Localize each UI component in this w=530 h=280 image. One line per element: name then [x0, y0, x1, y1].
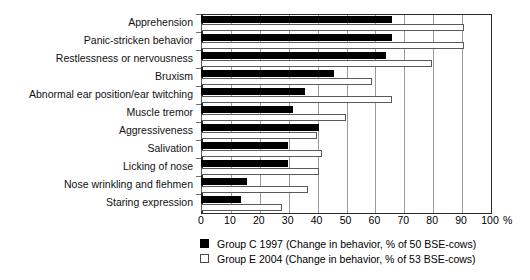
legend-swatch-outlined-square	[200, 254, 209, 263]
category-label: Staring expression	[0, 197, 193, 208]
bar-group-e-2004	[201, 132, 317, 139]
bar-group-e-2004	[201, 78, 372, 85]
bar-group-c-1997	[201, 52, 386, 59]
x-axis: 0102030405060708090100%	[201, 214, 511, 230]
bar-group-c-1997	[201, 88, 305, 95]
category-label: Abnormal ear position/ear twitching	[0, 89, 193, 100]
bar-group-e-2004	[201, 204, 282, 211]
bar-group-c-1997	[201, 178, 247, 185]
x-axis-unit-label: %	[503, 214, 512, 226]
category-label: Panic-stricken behavior	[0, 35, 193, 46]
bar-group-c-1997	[201, 106, 293, 113]
bar-group-e-2004	[201, 150, 322, 157]
bar-group	[201, 32, 490, 50]
bar-group	[201, 68, 490, 86]
bar-group-c-1997	[201, 142, 288, 149]
category-label: Aggressiveness	[0, 125, 193, 136]
category-axis-labels: ApprehensionPanic-stricken behaviorRestl…	[0, 14, 197, 212]
category-label: Licking of nose	[0, 161, 193, 172]
plot-area: ApprehensionPanic-stricken behaviorRestl…	[0, 0, 530, 232]
bar-group	[201, 158, 490, 176]
legend-item-group-c: Group C 1997 (Change in behavior, % of 5…	[200, 236, 530, 251]
legend: Group C 1997 (Change in behavior, % of 5…	[200, 236, 530, 266]
x-tick-label: 40	[311, 214, 323, 226]
bar-chart: ApprehensionPanic-stricken behaviorRestl…	[0, 0, 530, 280]
bar-group-c-1997	[201, 16, 392, 23]
bar-group	[201, 122, 490, 140]
bar-group-c-1997	[201, 124, 319, 131]
bar-group-e-2004	[201, 168, 319, 175]
legend-item-group-e: Group E 2004 (Change in behavior, % of 5…	[200, 251, 530, 266]
x-tick-label: 100	[481, 214, 499, 226]
x-tick-label: 0	[198, 214, 204, 226]
category-label: Restlessness or nervousness	[0, 53, 193, 64]
legend-label-group-c: Group C 1997 (Change in behavior, % of 5…	[217, 238, 476, 250]
x-tick-label: 70	[397, 214, 409, 226]
bar-group-c-1997	[201, 34, 392, 41]
bar-group	[201, 50, 490, 68]
bar-group-e-2004	[201, 114, 346, 121]
bar-group-c-1997	[201, 70, 334, 77]
bar-group	[201, 194, 490, 212]
x-tick-label: 50	[340, 214, 352, 226]
x-tick-label: 10	[224, 214, 236, 226]
category-label: Bruxism	[0, 71, 193, 82]
bar-group-e-2004	[201, 96, 392, 103]
bar-group-c-1997	[201, 196, 241, 203]
bar-group	[201, 140, 490, 158]
category-label: Nose wrinkling and flehmen	[0, 179, 193, 190]
bar-group	[201, 14, 490, 32]
x-tick-label: 60	[369, 214, 381, 226]
bar-group	[201, 86, 490, 104]
category-label: Salivation	[0, 143, 193, 154]
category-label: Apprehension	[0, 17, 193, 28]
x-tick-label: 90	[455, 214, 467, 226]
x-tick-label: 80	[426, 214, 438, 226]
bar-group	[201, 104, 490, 122]
legend-label-group-e: Group E 2004 (Change in behavior, % of 5…	[217, 253, 476, 265]
bar-group-e-2004	[201, 24, 464, 31]
category-label: Muscle tremor	[0, 107, 193, 118]
x-tick-label: 20	[253, 214, 265, 226]
legend-swatch-filled-square	[200, 239, 209, 248]
bar-group-e-2004	[201, 60, 432, 67]
bar-group-c-1997	[201, 160, 288, 167]
bar-group	[201, 176, 490, 194]
x-tick-label: 30	[282, 214, 294, 226]
bars-container	[201, 14, 490, 212]
bar-group-e-2004	[201, 42, 464, 49]
bar-group-e-2004	[201, 186, 308, 193]
